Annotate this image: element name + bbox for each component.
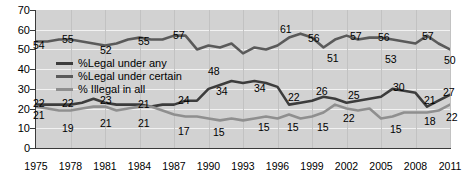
legend-line-swatch-icon (56, 88, 73, 91)
data-point-label: 19 (62, 123, 74, 133)
data-point-label: 56 (378, 32, 390, 42)
y-tick-mark (30, 30, 35, 31)
data-point-label: 21 (424, 95, 436, 105)
legend-item-label: %Legal under any (78, 58, 167, 69)
y-tick-mark (30, 69, 35, 70)
y-tick-label: 0 (6, 143, 30, 153)
data-point-label: 22 (446, 112, 458, 122)
series-line (36, 105, 450, 121)
data-point-label: 57 (422, 31, 434, 41)
data-point-label: 57 (173, 30, 185, 40)
data-point-label: 22 (343, 113, 355, 123)
y-tick-mark (30, 89, 35, 90)
y-tick-label: 30 (6, 84, 30, 94)
data-point-label: 23 (100, 95, 112, 105)
data-point-label: 17 (178, 126, 190, 136)
y-tick-label: 40 (6, 64, 30, 74)
line-chart: 010203040506070 197519781981198419871990… (0, 0, 464, 180)
data-point-label: 22 (288, 92, 300, 102)
data-point-label: 15 (287, 122, 299, 132)
data-point-label: 48 (208, 66, 220, 76)
data-point-label: 21 (138, 118, 150, 128)
legend-item-label: % Illegal in all (78, 84, 145, 95)
y-tick-mark (30, 148, 35, 149)
data-point-label: 21 (33, 110, 45, 120)
y-tick-label: 10 (6, 123, 30, 133)
y-tick-label: 50 (6, 44, 30, 54)
legend-line-swatch-icon (56, 75, 73, 78)
legend-item-label: %Legal under certain (78, 71, 182, 82)
data-point-label: 51 (327, 53, 339, 63)
data-point-label: 22 (33, 98, 45, 108)
chart-legend: %Legal under any%Legal under certain% Il… (56, 57, 182, 96)
data-point-label: 34 (216, 86, 228, 96)
data-point-label: 53 (385, 54, 397, 64)
gridline-vertical (450, 10, 451, 148)
data-point-label: 25 (348, 90, 360, 100)
data-point-label: 57 (350, 31, 362, 41)
y-tick-label: 60 (6, 25, 30, 35)
data-point-label: 61 (280, 24, 292, 34)
data-point-label: 26 (316, 86, 328, 96)
data-point-label: 34 (254, 83, 266, 93)
legend-item[interactable]: %Legal under certain (56, 70, 182, 83)
y-tick-label: 20 (6, 104, 30, 114)
data-point-label: 50 (444, 55, 456, 65)
data-point-label: 18 (424, 116, 436, 126)
data-point-label: 27 (443, 87, 455, 97)
data-point-label: 54 (33, 40, 45, 50)
data-point-label: 55 (138, 36, 150, 46)
data-point-label: 56 (308, 33, 320, 43)
data-point-label: 15 (213, 127, 225, 137)
x-axis (35, 148, 451, 149)
y-tick-label: 70 (6, 5, 30, 15)
data-point-label: 15 (390, 124, 402, 134)
legend-line-swatch-icon (56, 62, 73, 65)
legend-item[interactable]: %Legal under any (56, 57, 182, 70)
legend-item[interactable]: % Illegal in all (56, 83, 182, 96)
data-point-label: 24 (178, 95, 190, 105)
data-point-label: 55 (62, 34, 74, 44)
data-point-label: 52 (100, 45, 112, 55)
data-point-label: 15 (317, 122, 329, 132)
x-tick-label: 2011 (430, 160, 464, 172)
y-tick-mark (30, 10, 35, 11)
y-tick-mark (30, 128, 35, 129)
data-point-label: 30 (393, 82, 405, 92)
y-axis (35, 10, 36, 149)
data-point-label: 21 (138, 99, 150, 109)
data-point-label: 22 (62, 98, 74, 108)
data-point-label: 21 (100, 118, 112, 128)
data-point-label: 15 (258, 122, 270, 132)
